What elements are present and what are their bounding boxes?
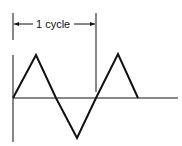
cycle-arrow-left [14, 22, 33, 26]
cycle-arrow-right [74, 22, 95, 26]
cycle-label: 1 cycle [36, 18, 70, 30]
triangle-wave-diagram: 1 cycle [0, 0, 182, 146]
triangle-waveform [13, 54, 138, 138]
